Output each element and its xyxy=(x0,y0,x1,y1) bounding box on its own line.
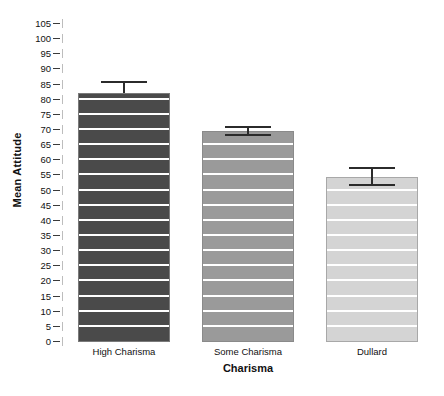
bar-stripe xyxy=(203,264,293,266)
y-axis-tick-mark xyxy=(53,265,60,266)
x-axis-tick-label: Dullard xyxy=(310,346,434,357)
y-axis-tick-label: 45 xyxy=(40,200,51,212)
bar-stripe xyxy=(79,279,169,281)
bar-stripe xyxy=(79,143,169,145)
y-axis-tick-label: 90 xyxy=(40,63,51,75)
bar-stripe xyxy=(203,173,293,175)
bar-stripe xyxy=(327,264,417,266)
y-axis-tick-mark xyxy=(53,174,60,175)
plot-area xyxy=(62,24,434,342)
y-axis-tick-label: 75 xyxy=(40,109,51,121)
y-axis-tick-mark xyxy=(53,129,60,130)
x-axis-title: Charisma xyxy=(62,362,434,374)
bar[interactable] xyxy=(202,131,294,342)
y-axis-tick-label: 35 xyxy=(40,230,51,242)
bar-stripe xyxy=(79,189,169,191)
bar-stripe xyxy=(79,158,169,160)
y-axis-tick-label: 40 xyxy=(40,215,51,227)
y-axis-tick-mark xyxy=(53,23,60,24)
y-axis-tick-mark xyxy=(53,296,60,297)
bar-stripe xyxy=(79,310,169,312)
bar-group xyxy=(202,24,294,342)
y-axis-tick-label: 70 xyxy=(40,124,51,136)
bar-group xyxy=(78,24,170,342)
error-bar-cap-upper xyxy=(225,126,271,128)
bar-stripe xyxy=(79,325,169,327)
y-axis-tick-mark xyxy=(53,68,60,69)
bar-stripe xyxy=(79,249,169,251)
bar-stripe xyxy=(203,295,293,297)
y-axis-tick-mark xyxy=(53,341,60,342)
y-axis-tick-mark xyxy=(53,53,60,54)
y-axis-tick-label: 15 xyxy=(40,291,51,303)
y-axis-tick-mark xyxy=(53,311,60,312)
bar-stripe xyxy=(79,204,169,206)
bar-stripe xyxy=(327,325,417,327)
bar-stripe xyxy=(79,295,169,297)
y-axis-tick-label: 0 xyxy=(46,336,51,348)
y-axis-tick-label: 20 xyxy=(40,275,51,287)
bar-group xyxy=(326,24,418,342)
bar-stripe xyxy=(327,249,417,251)
bar-stripe xyxy=(203,249,293,251)
error-bar xyxy=(78,81,170,93)
y-axis-tick-label: 105 xyxy=(35,18,51,30)
y-axis-title: Mean Attitude xyxy=(6,0,28,340)
y-axis-tick-label: 60 xyxy=(40,154,51,166)
bar-stripe xyxy=(203,325,293,327)
y-axis-tick-label: 80 xyxy=(40,94,51,106)
y-axis-tick-mark xyxy=(53,144,60,145)
y-axis-tick-mark xyxy=(53,326,60,327)
bar-stripe xyxy=(79,234,169,236)
bar[interactable] xyxy=(326,177,418,342)
bar[interactable] xyxy=(78,93,170,342)
x-axis-tick-label: High Charisma xyxy=(62,346,186,357)
error-bar-stem xyxy=(123,81,125,93)
error-bar-cap-upper xyxy=(101,81,147,83)
y-axis-tick-label: 100 xyxy=(35,33,51,45)
y-axis-tick-label: 50 xyxy=(40,185,51,197)
y-axis-tick-label: 30 xyxy=(40,245,51,257)
bar-stripe xyxy=(79,219,169,221)
bar-stripe xyxy=(327,279,417,281)
bar-stripe xyxy=(203,219,293,221)
y-axis-tick-mark xyxy=(53,220,60,221)
bar-stripe xyxy=(327,234,417,236)
y-axis-tick-mark xyxy=(53,235,60,236)
y-axis-tick-label: 95 xyxy=(40,48,51,60)
bar-stripe xyxy=(327,189,417,191)
bar-stripe xyxy=(327,204,417,206)
error-bar-cap-upper xyxy=(349,167,395,169)
bar-stripe xyxy=(79,173,169,175)
x-axis-tick-label: Some Charisma xyxy=(186,346,310,357)
bar-stripe xyxy=(203,143,293,145)
bar-stripe xyxy=(203,310,293,312)
bar-chart: Mean Attitude 05101520253035404550556065… xyxy=(0,0,444,396)
y-axis: 0510152025303540455055606570758085909510… xyxy=(28,24,62,342)
bar-stripe xyxy=(203,234,293,236)
y-axis-tick-label: 10 xyxy=(40,306,51,318)
bar-stripe xyxy=(79,113,169,115)
y-axis-tick-mark xyxy=(53,250,60,251)
bar-stripe xyxy=(203,204,293,206)
y-axis-tick-mark xyxy=(53,84,60,85)
y-axis-tick-label: 65 xyxy=(40,139,51,151)
y-axis-tick-mark xyxy=(53,38,60,39)
y-axis-tick-label: 85 xyxy=(40,79,51,91)
y-axis-tick-mark xyxy=(53,280,60,281)
y-axis-tick-mark xyxy=(53,190,60,191)
y-axis-tick-label: 55 xyxy=(40,169,51,181)
x-axis-tick-labels: High CharismaSome CharismaDullard xyxy=(62,346,434,362)
y-axis-tick-mark xyxy=(53,99,60,100)
y-axis-tick-label: 5 xyxy=(46,321,51,333)
bar-stripe xyxy=(79,98,169,100)
bar-stripe xyxy=(327,295,417,297)
bar-stripe xyxy=(327,219,417,221)
y-axis-tick-label: 25 xyxy=(40,260,51,272)
bar-stripe xyxy=(327,310,417,312)
y-axis-tick-mark xyxy=(53,114,60,115)
y-axis-tick-mark xyxy=(53,205,60,206)
bar-stripe xyxy=(79,264,169,266)
bar-stripe xyxy=(203,279,293,281)
bar-stripe xyxy=(79,128,169,130)
